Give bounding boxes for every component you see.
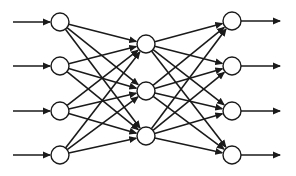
input-node: [51, 57, 69, 75]
connection-arrow: [151, 29, 226, 129]
connection-arrow: [67, 97, 138, 150]
output-node: [223, 12, 241, 30]
connection-arrow: [69, 24, 137, 41]
connection-arrow: [69, 46, 137, 63]
connection-arrow: [67, 28, 138, 85]
output-node: [223, 102, 241, 120]
connection-arrow: [66, 52, 140, 148]
connection-arrow: [153, 72, 224, 130]
hidden-node: [137, 35, 155, 53]
input-node: [51, 102, 69, 120]
connection-arrow: [155, 24, 223, 42]
output-node: [223, 146, 241, 164]
hidden-node: [137, 127, 155, 145]
connection-arrow: [153, 96, 224, 149]
connection-arrow: [67, 50, 138, 105]
input-node: [51, 13, 69, 31]
hidden-node: [137, 82, 155, 100]
output-node: [223, 57, 241, 75]
connection-arrow: [152, 51, 226, 147]
neural-network-diagram: [0, 0, 296, 176]
input-node: [51, 146, 69, 164]
